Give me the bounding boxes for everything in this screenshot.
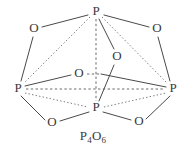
bond-pfront-pright	[104, 93, 166, 107]
atom-labels: P P P P O O O O O O	[14, 3, 176, 129]
atom-label-o-upper-right: O	[152, 20, 161, 35]
bond-pleft-pfront	[25, 93, 88, 107]
bond-olowerright-pright	[146, 96, 170, 119]
formula-subscript-4: 4	[87, 135, 92, 145]
atom-label-o-inner-left: O	[74, 65, 83, 80]
bond-pleft-olowerleft	[21, 96, 45, 120]
formula-caption: P4O6	[0, 128, 186, 144]
formula-subscript-6: 6	[102, 135, 107, 145]
bond-ptop-oinnerright	[99, 19, 114, 49]
formula-element-o: O	[92, 128, 102, 143]
bond-oinnerright-pfront	[99, 65, 114, 101]
atom-label-o-upper-left: O	[29, 20, 38, 35]
atom-label-o-inner-right: O	[112, 48, 121, 63]
p4o6-structure-figure: P P P P O O O O O O P4O6	[0, 0, 186, 154]
bond-olowerleft-pfront	[60, 112, 89, 121]
atom-label-p-left: P	[14, 80, 21, 95]
bond-oupperright-pright	[158, 37, 170, 81]
bond-oupperleft-pleft	[21, 37, 33, 81]
atom-label-p-front: P	[92, 99, 99, 114]
bond-pfront-olowerright	[103, 112, 131, 120]
bond-oinnerleft-pright	[101, 74, 166, 87]
atom-label-p-top: P	[92, 3, 99, 18]
tetrahedron-edges	[24, 17, 167, 107]
atom-label-o-lower-right: O	[134, 113, 143, 128]
bond-pleft-oinnerleft	[25, 75, 71, 86]
atom-label-p-right: P	[169, 80, 176, 95]
atom-label-o-lower-left: O	[47, 114, 56, 129]
